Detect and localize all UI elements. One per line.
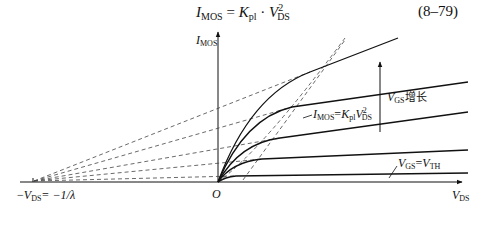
origin-label: O: [212, 187, 221, 202]
curve-5: [218, 173, 468, 182]
threshold-label: VGS=VTH: [398, 156, 440, 171]
early-voltage-extrapolation-lines: [34, 72, 310, 181]
vgs-increase-label: VGS增长: [387, 88, 427, 105]
intercept-label: −VDS= −1/λ: [17, 188, 75, 203]
boundary-leader: [303, 115, 312, 118]
curve-3: [218, 112, 468, 182]
boundary-equation-label: IMOS=KplV2DS: [313, 106, 372, 122]
y-axis-label: IMOS: [196, 33, 217, 48]
x-axis-label: VDS: [452, 188, 470, 203]
threshold-leader: [389, 166, 397, 178]
